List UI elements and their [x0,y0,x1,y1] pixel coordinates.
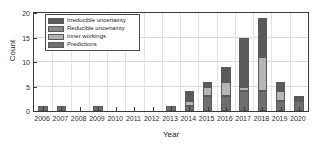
x-axis-tick-mark [153,107,154,111]
legend-swatch-icon [48,34,64,40]
y-axis-tick-mark [33,13,37,14]
x-axis-tick-labels: 2006200720082009201020112012201320142015… [33,114,309,126]
bar-segment[interactable] [221,82,230,97]
y-axis-tick-mark [33,87,37,88]
x-axis-tick-label: 2008 [71,114,87,123]
x-axis-tick-mark [262,107,263,111]
bar-segment[interactable] [276,91,285,101]
x-axis-tick-mark [134,107,135,111]
bar-segment[interactable] [185,91,194,101]
bar-segment[interactable] [239,38,248,87]
x-axis-tick-label: 2017 [235,114,251,123]
y-axis-title: Count [8,21,17,81]
legend-item[interactable]: Inner workings [48,33,136,40]
x-axis-tick-label: 2020 [290,114,306,123]
x-axis-tick-mark [80,107,81,111]
x-axis-tick-mark [299,107,300,111]
x-axis-title: Year [33,130,309,139]
y-axis-tick-mark [33,38,37,39]
y-axis-tick-mark [33,62,37,63]
x-axis-tick-mark [244,107,245,111]
x-axis-tick-label: 2011 [126,114,141,123]
x-axis-tick-label: 2014 [180,114,196,123]
legend-item-label: Inner workings [67,33,106,40]
x-axis-tick-label: 2006 [34,114,50,123]
y-axis-tick-label: 20 [22,10,30,17]
x-axis-tick-label: 2012 [144,114,160,123]
x-axis-tick-label: 2013 [162,114,178,123]
legend-item-label: Reducible uncertainty [67,25,125,32]
legend-item[interactable]: Predictions [48,41,136,48]
bar-segment[interactable] [203,87,212,97]
legend-item[interactable]: Irreducible uncertainty [48,17,136,24]
bar-group[interactable] [221,67,230,111]
x-axis-tick-label: 2010 [107,114,123,123]
legend-item-label: Predictions [67,41,97,48]
x-axis-tick-label: 2016 [217,114,233,123]
bar-segment[interactable] [203,82,212,87]
bar-group[interactable] [258,18,267,111]
x-axis-tick-mark [189,107,190,111]
y-axis-tick-label: 15 [22,34,30,41]
x-axis-tick-mark [43,107,44,111]
x-axis-tick-label: 2007 [53,114,69,123]
x-axis-tick-label: 2009 [89,114,105,123]
bar-segment[interactable] [185,101,194,106]
x-axis-tick-mark [281,107,282,111]
y-axis-tick-label: 0 [26,108,30,115]
legend-item[interactable]: Reducible uncertainty [48,25,136,32]
chart-legend: Irreducible uncertaintyReducible uncerta… [45,14,140,51]
x-axis-tick-label: 2019 [272,114,288,123]
y-axis-tick-mark [33,111,37,112]
bar-segment[interactable] [294,96,303,101]
x-axis-tick-label: 2018 [254,114,270,123]
bar-segment[interactable] [258,57,267,91]
x-axis-tick-mark [208,107,209,111]
x-axis-tick-label: 2015 [199,114,215,123]
x-axis-tick-mark [98,107,99,111]
bar-segment[interactable] [276,82,285,92]
x-axis-tick-mark [226,107,227,111]
bar-chart-figure: 05101520 Count 2006200720082009201020112… [0,0,317,149]
legend-swatch-icon [48,26,64,32]
x-axis-tick-mark [171,107,172,111]
bar-segment[interactable] [239,87,248,92]
y-axis-tick-label: 5 [26,83,30,90]
bar-group[interactable] [239,38,248,112]
x-axis-tick-mark [116,107,117,111]
x-axis-tick-mark [61,107,62,111]
bar-segment[interactable] [221,67,230,82]
legend-swatch-icon [48,42,64,48]
legend-item-label: Irreducible uncertainty [67,17,126,24]
legend-swatch-icon [48,18,64,24]
y-axis-tick-label: 10 [22,59,30,66]
bar-segment[interactable] [258,18,267,57]
